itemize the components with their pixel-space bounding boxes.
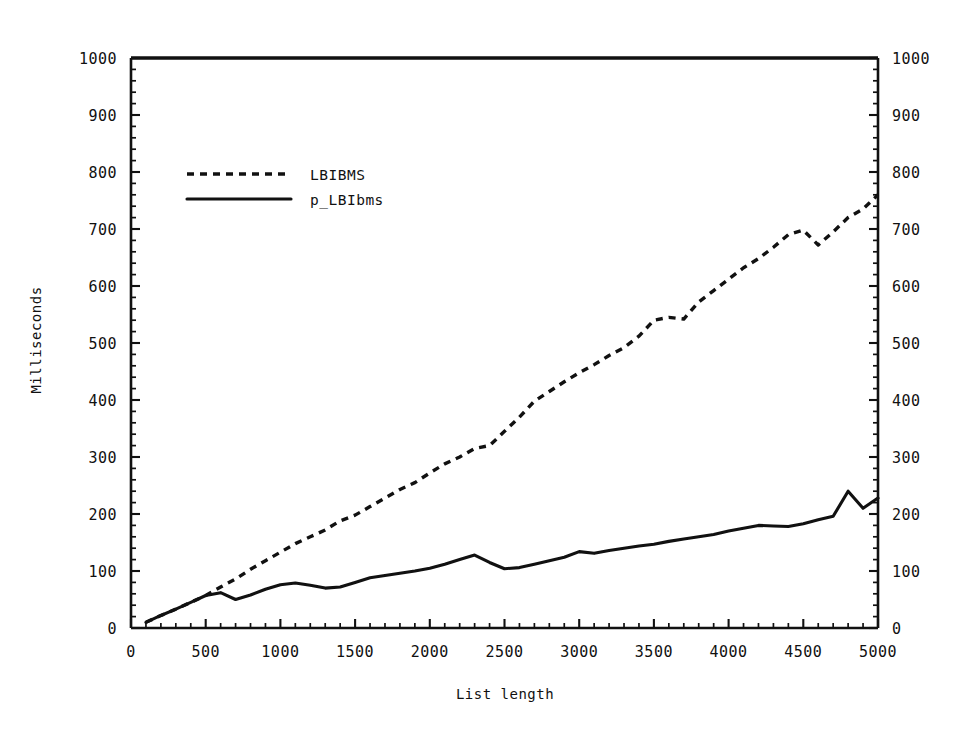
x-tick-label: 1000 — [261, 643, 299, 661]
y-tick-label-left: 900 — [88, 107, 117, 125]
y-tick-label-right: 800 — [892, 164, 921, 182]
y-tick-label-right: 200 — [892, 506, 921, 524]
y-tick-label-right: 0 — [892, 620, 902, 638]
y-tick-label-right: 300 — [892, 449, 921, 467]
y-tick-label-left: 100 — [88, 563, 117, 581]
legend-label-p-lbibms: p_LBIbms — [310, 192, 384, 209]
chart-figure: 01002003004005006007008009001000 0100200… — [0, 0, 973, 745]
y-tick-label-left: 0 — [107, 620, 117, 638]
y-tick-label-left: 400 — [88, 392, 117, 410]
legend-label-lbibms: LBIBMS — [310, 167, 365, 183]
x-tick-label: 0 — [126, 643, 136, 661]
chart-canvas: 01002003004005006007008009001000 0100200… — [0, 0, 973, 745]
x-tick-label: 3000 — [560, 643, 598, 661]
y-tick-label-right: 100 — [892, 563, 921, 581]
y-axis-title: Milliseconds — [28, 286, 44, 393]
y-tick-label-left: 800 — [88, 164, 117, 182]
y-tick-label-right: 1000 — [892, 50, 930, 68]
y-tick-label-left: 300 — [88, 449, 117, 467]
chart-background — [0, 0, 973, 745]
x-tick-label: 1500 — [336, 643, 374, 661]
y-tick-label-left: 500 — [88, 335, 117, 353]
x-tick-label: 4500 — [784, 643, 822, 661]
y-tick-label-right: 500 — [892, 335, 921, 353]
x-tick-label: 3500 — [635, 643, 673, 661]
y-tick-label-right: 700 — [892, 221, 921, 239]
y-tick-label-right: 600 — [892, 278, 921, 296]
y-tick-label-left: 700 — [88, 221, 117, 239]
y-tick-label-left: 600 — [88, 278, 117, 296]
x-tick-label: 5000 — [859, 643, 897, 661]
x-axis-title: List length — [456, 686, 554, 702]
y-tick-label-left: 200 — [88, 506, 117, 524]
x-tick-label: 2500 — [485, 643, 523, 661]
y-tick-label-left: 1000 — [79, 50, 117, 68]
x-tick-label: 2000 — [411, 643, 449, 661]
x-tick-label: 500 — [191, 643, 220, 661]
x-tick-label: 4000 — [710, 643, 748, 661]
y-tick-label-right: 400 — [892, 392, 921, 410]
y-tick-label-right: 900 — [892, 107, 921, 125]
